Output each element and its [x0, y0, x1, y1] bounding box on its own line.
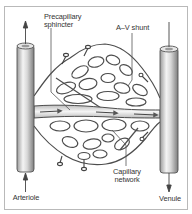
label-capillary-network-line2: network — [114, 176, 139, 184]
thoroughfare-channel — [34, 105, 160, 118]
label-venule: Venule — [159, 195, 181, 203]
venule-vessel — [160, 46, 178, 173]
label-arteriole: Arteriole — [13, 194, 40, 202]
label-precapillary-sphincter-line2: sphincter — [44, 21, 73, 29]
label-av-shunt: A–V shunt — [116, 24, 149, 32]
arteriole-vessel — [17, 43, 34, 172]
capillary-network — [34, 44, 160, 165]
microcirculation-diagram — [0, 0, 192, 214]
